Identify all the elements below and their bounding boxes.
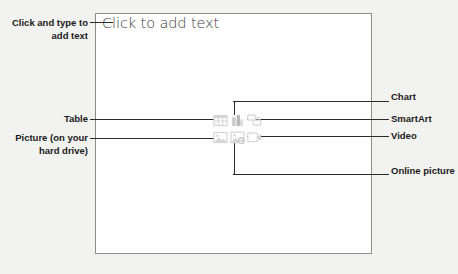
online-picture-icon[interactable] [230, 130, 245, 145]
leader-line-smartart [247, 119, 389, 120]
callout-label-online-picture: Online picture [391, 165, 455, 178]
callout-label-picture: Picture (on your hard drive) [6, 132, 88, 157]
chart-icon[interactable] [230, 113, 245, 128]
slide-body-placeholder-text[interactable]: Click to add text [102, 15, 219, 31]
callout-label-chart: Chart [391, 91, 457, 104]
leader-line-table [90, 119, 215, 120]
callout-label-video: Video [391, 130, 457, 143]
video-icon[interactable] [247, 130, 262, 145]
table-icon[interactable] [213, 113, 228, 128]
smartart-icon[interactable] [247, 113, 262, 128]
leader-line-picture [90, 138, 215, 139]
leader-line-online-picture-vertical [234, 145, 235, 175]
callout-label-smartart: SmartArt [391, 113, 457, 126]
callout-label-click-and-type: Click and type to add text [6, 17, 88, 42]
leader-line-video [247, 136, 389, 137]
picture-icon[interactable] [213, 130, 228, 145]
diagram-root: Click to add text [0, 0, 458, 274]
leader-line-click-and-type [90, 22, 113, 23]
content-placeholder-icon-cluster[interactable] [213, 112, 262, 145]
callout-label-table: Table [6, 113, 88, 126]
leader-line-online-picture-horizontal [233, 174, 389, 175]
leader-line-chart-horizontal [233, 101, 389, 102]
